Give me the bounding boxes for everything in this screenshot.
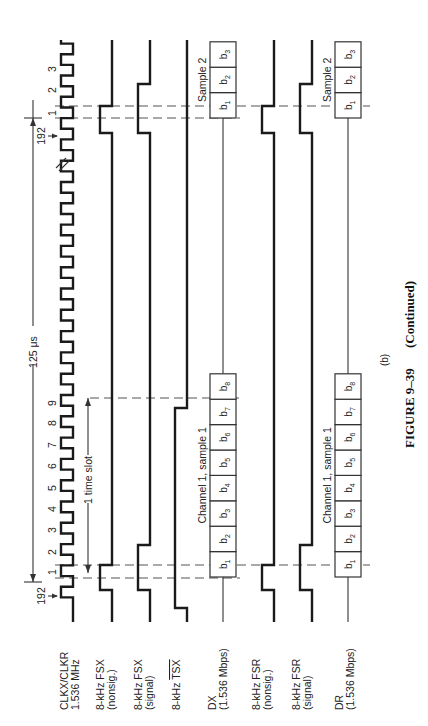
arrowhead-icon	[30, 574, 36, 582]
signal-label-line2: (1.536 Mbps)	[217, 648, 229, 710]
clock-number: 6	[46, 463, 58, 469]
signal-label-line2: (signal)	[301, 676, 313, 710]
figure-caption: FIGURE 9–39 (Continued)	[402, 281, 417, 448]
bit-subscript: 5	[224, 458, 231, 462]
clock-number: 8	[46, 420, 58, 426]
clock-number: 9	[46, 400, 58, 406]
clock-number: 5	[46, 485, 58, 491]
clock-waveform	[61, 40, 73, 622]
bit-subscript: 1	[349, 559, 356, 563]
arrowhead-icon	[85, 565, 91, 573]
signal-label-fsx_s: 8-kHz FSX(signal)	[132, 659, 155, 710]
signal-labels: CLKX/CLKR1.536 MHz8-kHz FSX(nonsig.)8-kH…	[58, 648, 356, 710]
word-label-sample2: Sample 2	[196, 58, 208, 103]
bit-subscript: 4	[224, 483, 231, 487]
word-label-sample1: Channel 1, sample 1	[321, 427, 333, 523]
bit-subscript: 4	[349, 483, 356, 487]
bit-subscript: 1	[224, 559, 231, 563]
frame-period-label: 125 μs	[27, 336, 39, 368]
clock-number: 4	[46, 506, 58, 512]
clock-number: 3	[46, 66, 58, 72]
overlined-signal-name: TSX	[170, 659, 182, 679]
signal-label-dr: DR(1.536 Mbps)	[333, 648, 356, 710]
bit-subscript: 5	[349, 458, 356, 462]
bit-subscript: 8	[349, 382, 356, 386]
fsr-signal-waveform	[300, 40, 312, 622]
bit-subscript: 2	[349, 534, 356, 538]
clock-number: 3	[46, 527, 58, 533]
part-label: (b)	[379, 354, 390, 366]
bit-subscript: 3	[349, 50, 356, 54]
clock-number: 1	[46, 110, 58, 116]
signal-label-line2: (1.536 Mbps)	[344, 648, 356, 710]
clock-number: 7	[46, 442, 58, 448]
word-label-sample1: Channel 1, sample 1	[196, 427, 208, 523]
bit-subscript: 8	[224, 382, 231, 386]
signal-label-fsx_ns: 8-kHz FSX(nonsig.)	[94, 659, 117, 710]
signal-label-dx: DX(1.536 Mbps)	[206, 648, 229, 710]
bit-subscript: 6	[349, 432, 356, 436]
bit-subscript: 2	[224, 75, 231, 79]
clock-number: 1	[46, 569, 58, 575]
arrowhead-icon	[52, 594, 58, 599]
signal-label-fsr_s: 8-kHz FSR(signal)	[290, 658, 313, 710]
signal-label-line2: (nonsig.)	[105, 669, 117, 710]
bit-subscript: 2	[349, 75, 356, 79]
bit-subscript: 7	[349, 407, 356, 411]
fsx-signal-waveform	[138, 40, 150, 622]
dx-data-line: b1b2b3b4b5b6b7b8Channel 1, sample 1b1b2b…	[196, 42, 236, 622]
bit-subscript: 1	[224, 100, 231, 104]
bit-subscript: 1	[349, 100, 356, 104]
time-slot-label: 1 time slot	[82, 456, 94, 504]
signal-label-line1: 8-kHz TSX	[170, 659, 182, 710]
timing-diagram: b1b2b3b4b5b6b7b8Channel 1, sample 1b1b2b…	[0, 0, 428, 726]
bit-subscript: 6	[224, 432, 231, 436]
caption-suffix: (Continued)	[402, 281, 417, 348]
fsr-nonsig-waveform	[262, 40, 274, 622]
tsx-waveform	[175, 40, 187, 622]
clock-count-start: 192	[35, 587, 47, 605]
signal-label-fsr_ns: 8-kHz FSR(nonsig.)	[250, 658, 273, 710]
bit-subscript: 2	[224, 534, 231, 538]
clock-number: 2	[46, 549, 58, 555]
clock-number: 2	[46, 87, 58, 93]
arrowhead-icon	[30, 118, 36, 126]
clock-cycle-numbers: 123456789123	[46, 66, 58, 575]
signal-label-clk: CLKX/CLKR1.536 MHz	[58, 651, 81, 710]
bit-subscript: 3	[224, 509, 231, 513]
fsx-nonsig-waveform	[100, 40, 112, 622]
signal-label-line2: (nonsig.)	[261, 669, 273, 710]
arrowhead-icon	[52, 134, 58, 139]
bit-subscript: 3	[349, 509, 356, 513]
signal-label-tsx: 8-kHz TSX	[170, 659, 182, 710]
dimension-annotations: 125 μs1 time slot192192	[24, 100, 94, 605]
dr-data-line: b1b2b3b4b5b6b7b8Channel 1, sample 1b1b2b…	[321, 42, 361, 622]
bit-subscript: 7	[224, 407, 231, 411]
arrowhead-icon	[85, 398, 91, 406]
bit-subscript: 3	[224, 50, 231, 54]
clock-count-end: 192	[35, 127, 47, 145]
signal-label-line2: (signal)	[143, 676, 155, 710]
signal-label-line2: 1.536 MHz	[69, 659, 81, 710]
word-label-sample2: Sample 2	[321, 58, 333, 103]
caption-number: FIGURE 9–39	[402, 368, 417, 448]
